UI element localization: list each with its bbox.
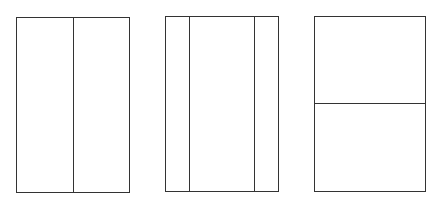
rectangle-split-horizontal-halves <box>314 16 426 192</box>
vertical-divider <box>73 18 74 192</box>
vertical-divider-right <box>254 17 255 191</box>
rectangle-split-three-strips <box>165 16 279 192</box>
horizontal-divider <box>315 103 425 104</box>
rectangle-split-vertical-halves <box>16 17 130 193</box>
vertical-divider-left <box>189 17 190 191</box>
